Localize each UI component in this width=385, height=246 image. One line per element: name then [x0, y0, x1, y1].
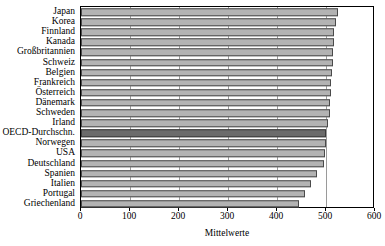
bar-row: [81, 58, 373, 68]
bar-row: [81, 189, 373, 199]
bar: [81, 49, 333, 56]
x-tick-label: 600: [367, 211, 381, 222]
x-axis-title: Mittelwerte: [80, 228, 374, 239]
bar-row: [81, 27, 373, 37]
bar-row: [81, 128, 373, 138]
category-label: Kanada: [46, 36, 75, 46]
bar-row: [81, 148, 373, 158]
category-label: Korea: [52, 16, 75, 26]
category-label: Irland: [52, 117, 75, 127]
bar-chart: JapanKoreaFinnlandKanadaGroßbritannienSc…: [0, 0, 385, 246]
bar: [81, 29, 334, 36]
bar: [81, 59, 333, 66]
category-label: Griechenland: [24, 198, 75, 208]
x-tick-label: 500: [318, 211, 332, 222]
bar-row: [81, 179, 373, 189]
bar: [81, 130, 326, 137]
bar-row: [81, 37, 373, 47]
category-axis-labels: JapanKoreaFinnlandKanadaGroßbritannienSc…: [0, 6, 78, 208]
bar: [81, 150, 325, 157]
bar-row: [81, 88, 373, 98]
category-label: Japan: [53, 6, 75, 16]
x-tick-label: 400: [269, 211, 283, 222]
bar-row: [81, 7, 373, 17]
category-label: Österreich: [35, 87, 75, 97]
bar: [81, 109, 330, 116]
bars-layer: [81, 7, 373, 207]
category-label: Frankreich: [34, 77, 75, 87]
bar: [81, 160, 324, 167]
category-label: Dänemark: [35, 97, 75, 107]
category-label: Deutschland: [28, 158, 76, 168]
bar: [81, 170, 317, 177]
bar-row: [81, 169, 373, 179]
x-axis-ticks: 0100200300400500600: [80, 208, 374, 222]
x-tick-label: 100: [122, 211, 136, 222]
bar-row: [81, 118, 373, 128]
category-label: USA: [56, 147, 75, 157]
plot-area: [80, 6, 374, 208]
bar: [81, 89, 331, 96]
bar: [81, 119, 328, 126]
x-tick-label: 200: [171, 211, 185, 222]
category-label: Finnland: [41, 26, 75, 36]
bar: [81, 79, 331, 86]
bar-row: [81, 68, 373, 78]
bar: [81, 180, 311, 187]
x-tick-label: 300: [220, 211, 234, 222]
category-label: Großbritannien: [17, 46, 75, 56]
category-label: Belgien: [45, 67, 75, 77]
category-label: Norwegen: [35, 137, 75, 147]
category-label: Schweiz: [43, 57, 75, 67]
bar-row: [81, 78, 373, 88]
bar: [81, 190, 305, 197]
bar: [81, 8, 338, 15]
bar-row: [81, 98, 373, 108]
category-label: Spanien: [44, 168, 75, 178]
bar-row: [81, 138, 373, 148]
x-tick-label: 0: [78, 211, 83, 222]
bar: [81, 39, 334, 46]
category-label: Portugal: [43, 188, 75, 198]
bar: [81, 99, 330, 106]
bar-row: [81, 159, 373, 169]
bar: [81, 18, 336, 25]
category-label: Italien: [51, 178, 75, 188]
bar: [81, 69, 332, 76]
category-label: Schweden: [36, 107, 75, 117]
bar: [81, 200, 299, 207]
bar-row: [81, 108, 373, 118]
bar: [81, 140, 326, 147]
category-label: OECD-Durchschn.: [2, 127, 75, 137]
bar-row: [81, 17, 373, 27]
bar-row: [81, 47, 373, 57]
